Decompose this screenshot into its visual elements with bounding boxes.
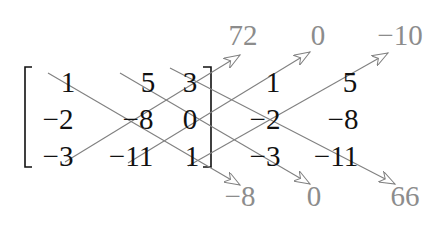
up-diagonal-arrow-2 xyxy=(128,52,310,163)
aug-cell-r1c1: 1 xyxy=(266,68,281,97)
aug-cell-r1c2: 5 xyxy=(343,68,358,97)
matrix-cell-r2c3: 0 xyxy=(183,105,198,134)
up-product-2: 0 xyxy=(311,21,326,50)
down-product-3: 66 xyxy=(391,182,420,211)
matrix-cell-r2c1: −2 xyxy=(43,105,74,134)
matrix-cell-r3c1: −3 xyxy=(43,142,74,171)
matrix-cell-r1c1: 1 xyxy=(61,68,76,97)
up-product-3: −10 xyxy=(377,21,422,50)
aug-cell-r2c1: −2 xyxy=(250,105,281,134)
matrix-cell-r3c3: 1 xyxy=(185,142,200,171)
matrix-cell-r1c3: 3 xyxy=(183,68,198,97)
matrix-cell-r3c2: −11 xyxy=(109,142,153,171)
left-bracket xyxy=(25,67,32,167)
matrix-cell-r1c2: 5 xyxy=(141,68,156,97)
up-product-1: 72 xyxy=(229,21,258,50)
aug-cell-r2c2: −8 xyxy=(328,105,359,134)
down-product-2: 0 xyxy=(307,182,322,211)
aug-cell-r3c1: −3 xyxy=(250,142,281,171)
aug-cell-r3c2: −11 xyxy=(314,142,358,171)
matrix-cell-r2c2: −8 xyxy=(123,105,154,134)
down-product-1: −8 xyxy=(225,182,256,211)
